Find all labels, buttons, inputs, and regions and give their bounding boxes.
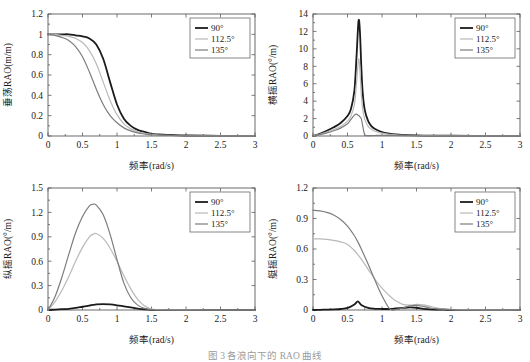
x-tick-label: 2.5: [480, 314, 492, 324]
y-tick-label: 0.6: [31, 257, 43, 267]
x-tick-label: 0.5: [77, 314, 89, 324]
figure-caption: 图 3 各浪向下的 RAO 曲线: [0, 348, 530, 362]
x-tick-label: 2: [449, 314, 454, 324]
x-tick-label: 0.5: [77, 140, 89, 150]
chart-panel-heave: 00.511.522.5300.20.40.60.811.2频率(rad/s)垂…: [0, 2, 265, 174]
x-tick-label: 0.5: [342, 140, 354, 150]
y-axis-title: 纵摇RAO(°/m): [2, 219, 14, 279]
y-tick-label: 0.2: [31, 111, 43, 121]
x-tick-label: 2.5: [480, 140, 492, 150]
x-tick-label: 2.5: [215, 140, 227, 150]
y-axis-title: 垂荡RAO(m/m): [2, 43, 14, 107]
legend-label: 112.5°: [211, 34, 235, 44]
x-tick-label: 0: [311, 314, 316, 324]
y-tick-label: 1: [38, 30, 43, 40]
x-tick-label: 1: [380, 314, 385, 324]
x-tick-label: 1.5: [411, 314, 423, 324]
y-tick-label: 0: [38, 305, 43, 315]
y-tick-label: 12: [299, 27, 309, 37]
x-tick-label: 3: [518, 314, 523, 324]
legend-label: 112.5°: [476, 34, 500, 44]
y-tick-label: 0: [303, 131, 308, 141]
x-axis-title: 频率(rad/s): [394, 334, 439, 346]
y-tick-label: 10: [299, 44, 309, 54]
y-tick-label: 0.3: [296, 275, 308, 285]
x-tick-label: 0.5: [342, 314, 354, 324]
x-tick-label: 0: [46, 314, 51, 324]
legend-label: 90°: [211, 23, 224, 33]
chart-panel-pitch: 00.511.522.5300.30.60.91.21.5频率(rad/s)纵摇…: [0, 176, 265, 348]
legend-label: 90°: [211, 197, 224, 207]
x-tick-label: 2.5: [215, 314, 227, 324]
y-tick-label: 1.2: [31, 208, 43, 218]
legend-label: 90°: [476, 197, 489, 207]
y-tick-label: 6: [303, 79, 308, 89]
y-tick-label: 0.4: [31, 91, 43, 101]
legend-label: 112.5°: [211, 208, 235, 218]
y-tick-label: 0: [38, 131, 43, 141]
y-tick-label: 1.2: [296, 183, 308, 193]
y-tick-label: 2: [303, 114, 308, 124]
y-tick-label: 1.2: [31, 9, 43, 19]
x-tick-label: 1.5: [146, 140, 158, 150]
chart-panel-yaw: 00.511.522.5300.30.60.91.2频率(rad/s)艇摇RAO…: [265, 176, 530, 348]
y-axis-title: 艇摇RAO(°/m): [267, 219, 279, 279]
y-tick-label: 4: [303, 96, 308, 106]
x-tick-label: 1.5: [146, 314, 158, 324]
legend-label: 135°: [211, 219, 229, 229]
legend-label: 90°: [476, 23, 489, 33]
y-tick-label: 0.6: [31, 70, 43, 80]
y-tick-label: 0.6: [296, 244, 308, 254]
x-axis-title: 频率(rad/s): [394, 160, 439, 172]
x-tick-label: 3: [253, 140, 258, 150]
legend-label: 112.5°: [476, 208, 500, 218]
y-tick-label: 14: [299, 9, 309, 19]
x-axis-title: 频率(rad/s): [129, 160, 174, 172]
chart-panel-roll: 00.511.522.5302468101214频率(rad/s)横摇RAO(°…: [265, 2, 530, 174]
x-tick-label: 3: [518, 140, 523, 150]
y-axis-title: 横摇RAO(°/m): [267, 45, 279, 105]
y-tick-label: 0.9: [31, 232, 43, 242]
x-tick-label: 0: [311, 140, 316, 150]
x-axis-title: 频率(rad/s): [129, 334, 174, 346]
y-tick-label: 0: [303, 305, 308, 315]
y-tick-label: 8: [303, 62, 308, 72]
chart-heave: 00.511.522.5300.20.40.60.811.2频率(rad/s)垂…: [0, 2, 265, 174]
x-tick-label: 2: [184, 140, 189, 150]
y-tick-label: 0.9: [296, 214, 308, 224]
y-tick-label: 0.8: [31, 50, 43, 60]
legend-label: 135°: [211, 45, 229, 55]
y-tick-label: 1.5: [31, 183, 43, 193]
chart-roll: 00.511.522.5302468101214频率(rad/s)横摇RAO(°…: [265, 2, 530, 174]
x-tick-label: 1.5: [411, 140, 423, 150]
x-tick-label: 1: [115, 314, 120, 324]
legend-label: 135°: [476, 219, 494, 229]
x-tick-label: 2: [184, 314, 189, 324]
x-tick-label: 2: [449, 140, 454, 150]
legend-label: 135°: [476, 45, 494, 55]
chart-yaw: 00.511.522.5300.30.60.91.2频率(rad/s)艇摇RAO…: [265, 176, 530, 348]
x-tick-label: 0: [46, 140, 51, 150]
chart-pitch: 00.511.522.5300.30.60.91.21.5频率(rad/s)纵摇…: [0, 176, 265, 348]
y-tick-label: 0.3: [31, 281, 43, 291]
x-tick-label: 1: [380, 140, 385, 150]
x-tick-label: 3: [253, 314, 258, 324]
x-tick-label: 1: [115, 140, 120, 150]
